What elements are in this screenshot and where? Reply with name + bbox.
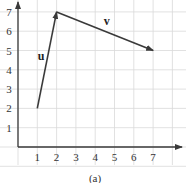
y-tick-label: 1 bbox=[6, 122, 12, 134]
x-tick-label: 5 bbox=[112, 151, 118, 163]
vector-chart: 1234567 1234567 uv (a) bbox=[0, 0, 186, 183]
y-tick-labels: 1234567 bbox=[6, 6, 12, 134]
y-tick-label: 5 bbox=[6, 45, 12, 57]
y-tick-label: 6 bbox=[6, 25, 12, 37]
y-tick-label: 2 bbox=[6, 102, 12, 114]
vector-label-v: v bbox=[104, 14, 110, 28]
x-tick-label: 3 bbox=[73, 151, 79, 163]
x-tick-label: 7 bbox=[150, 151, 156, 163]
y-tick-label: 7 bbox=[6, 6, 12, 18]
x-tick-label: 1 bbox=[35, 151, 41, 163]
x-tick-labels: 1234567 bbox=[35, 151, 157, 163]
y-tick-label: 4 bbox=[6, 64, 12, 76]
grid bbox=[0, 0, 186, 166]
x-tick-label: 4 bbox=[92, 151, 98, 163]
vector-label-u: u bbox=[38, 49, 45, 63]
figure-caption: (a) bbox=[89, 172, 102, 183]
y-tick-label: 3 bbox=[6, 83, 12, 95]
axes bbox=[18, 2, 182, 147]
x-tick-label: 2 bbox=[54, 151, 60, 163]
x-tick-label: 6 bbox=[131, 151, 137, 163]
